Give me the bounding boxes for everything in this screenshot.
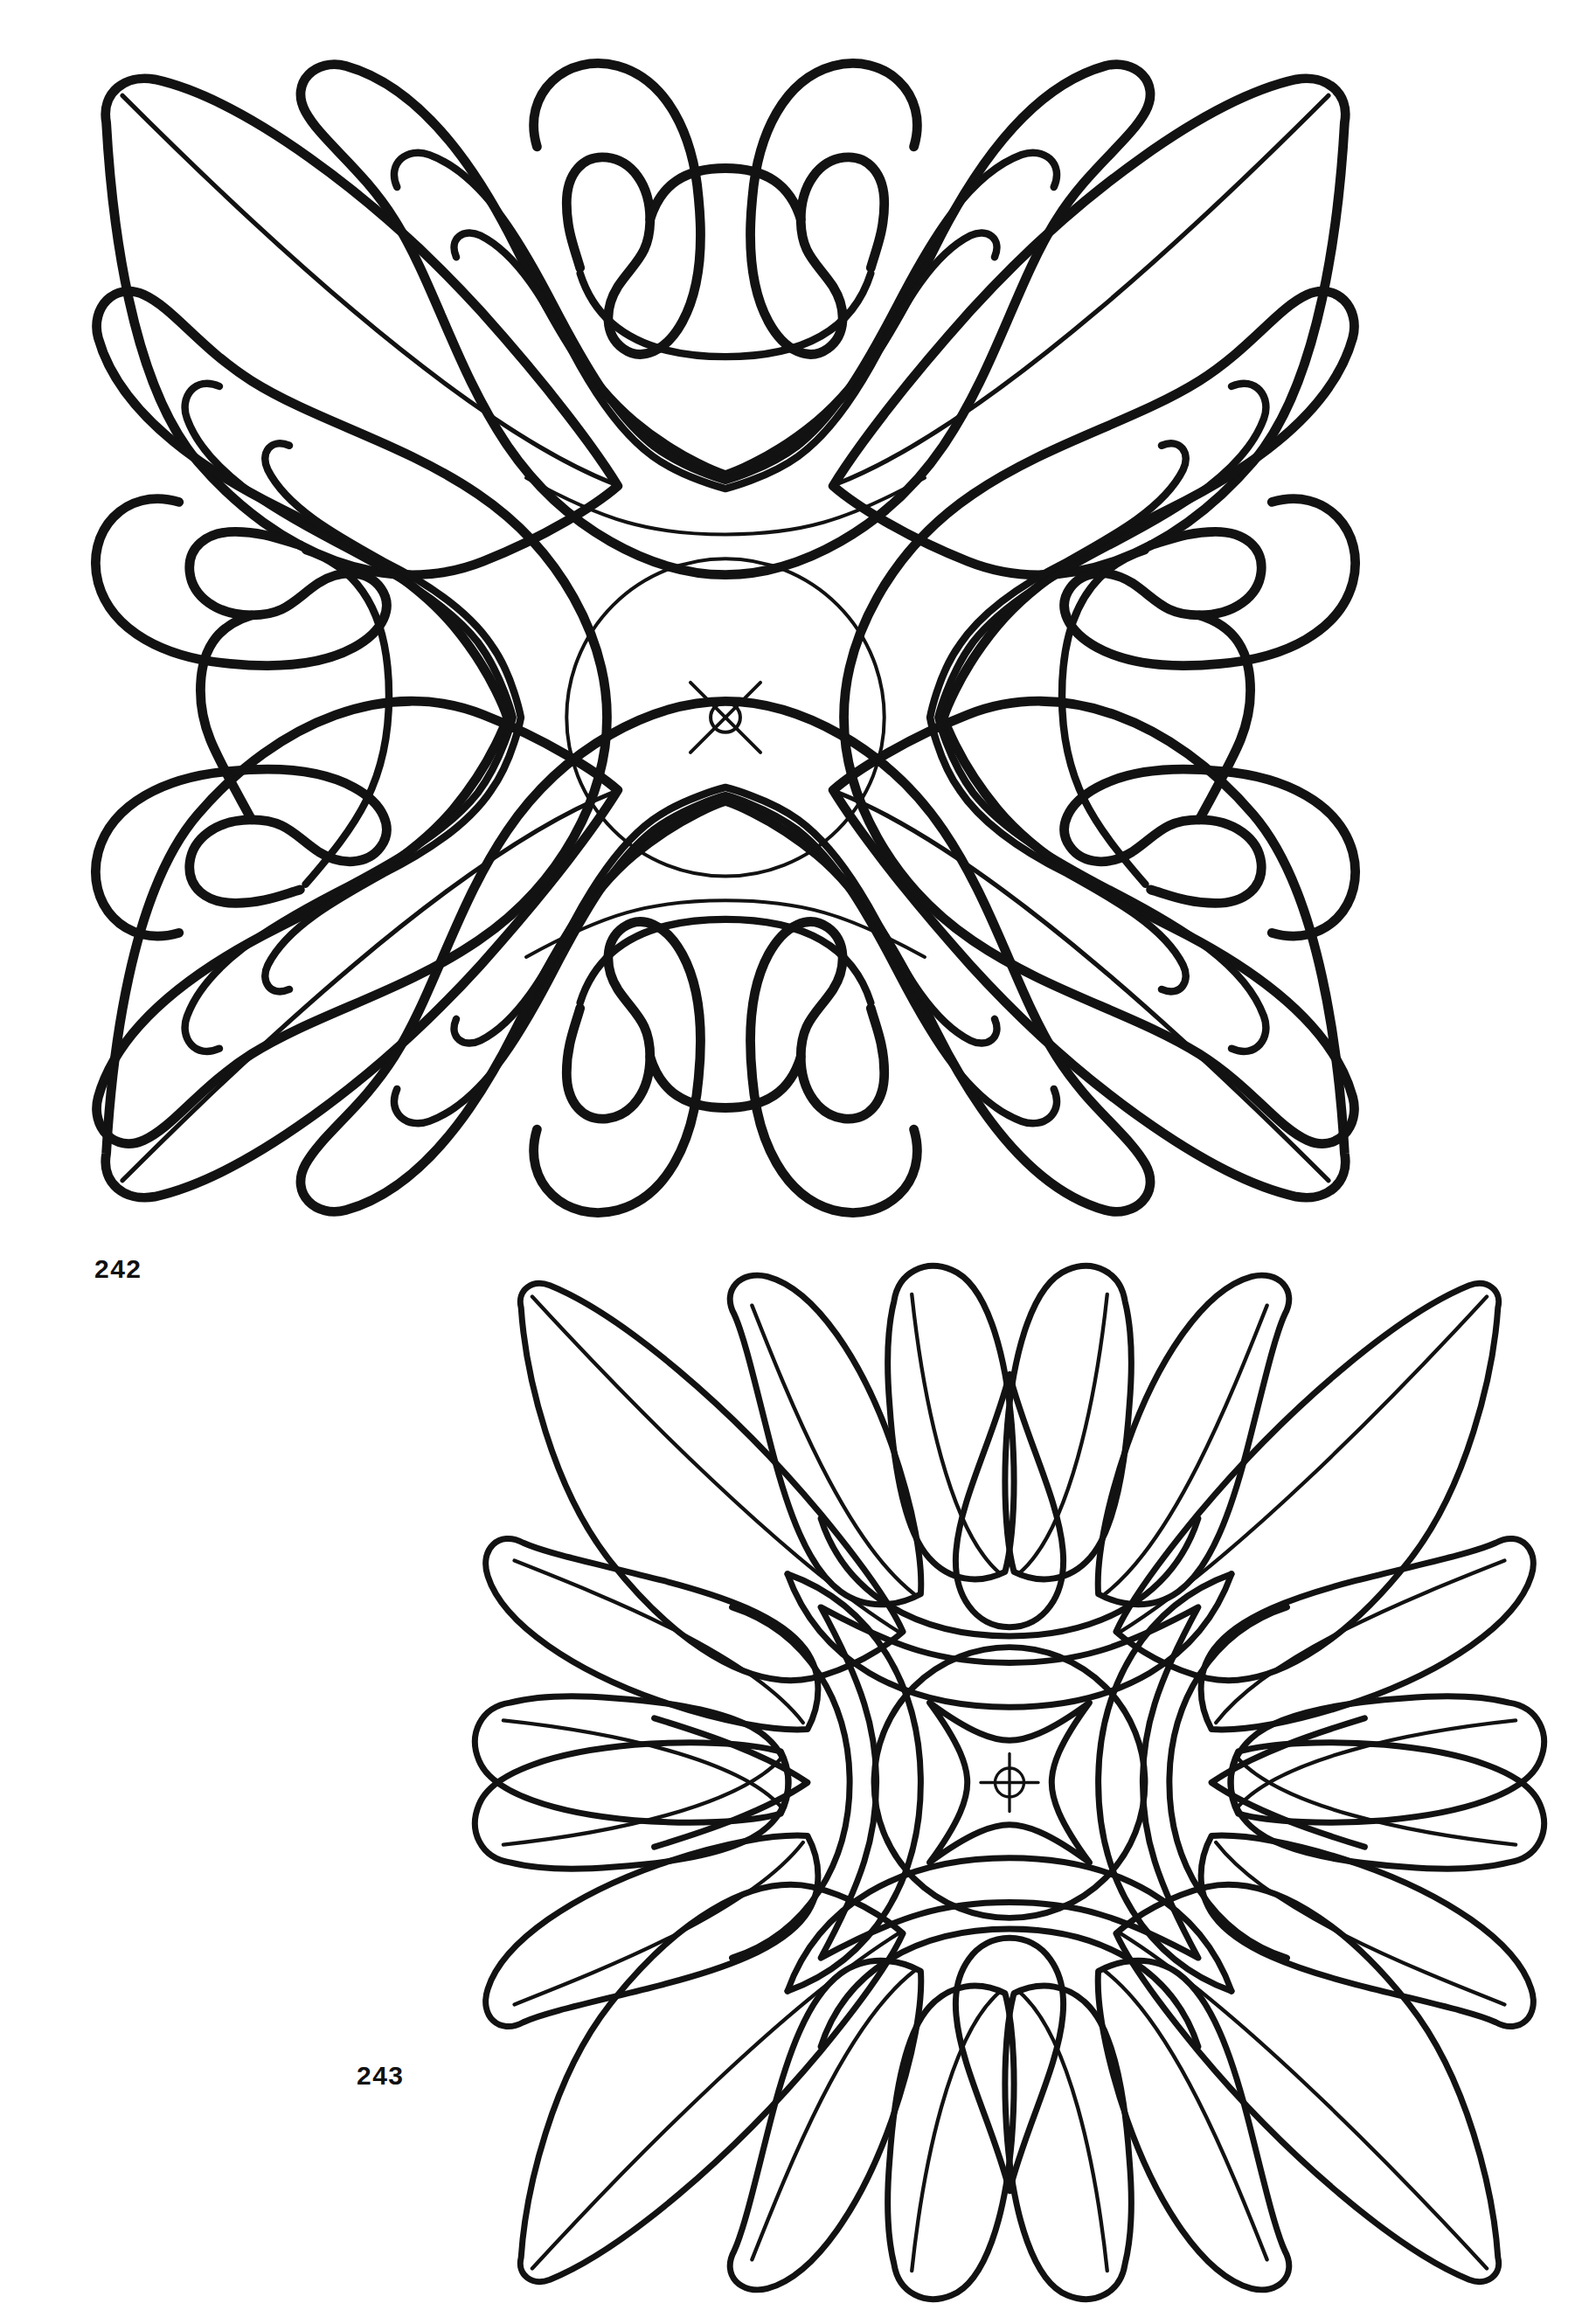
fig243-ink	[475, 1266, 1544, 2300]
figure-243	[454, 1241, 1565, 2324]
bottom-outer-acanthus	[301, 701, 1150, 1211]
right-lobe-3-vein	[1236, 1756, 1516, 1845]
figure-242	[52, 17, 1398, 1259]
right-volute-upper	[1065, 499, 1356, 666]
fig242-ink	[95, 63, 1355, 1212]
right-lobe-3	[1231, 1743, 1544, 1869]
left-lobe-3-vein	[503, 1756, 783, 1845]
top-outer-acanthus	[301, 65, 1150, 575]
figure-243-drawing	[454, 1241, 1565, 2324]
right-center-point	[1211, 1718, 1364, 1847]
top-scroll-crown	[650, 168, 801, 219]
plate-page: 242	[0, 0, 1582, 2324]
right-lobe-2-vein	[1236, 1720, 1516, 1809]
figure-243-label: 243	[357, 2061, 405, 2091]
figure-242-drawing	[52, 17, 1398, 1259]
top-bowl-sweep-outer	[788, 1574, 1232, 1707]
left-volute-upper	[95, 499, 386, 666]
left-lobe-2	[475, 1696, 788, 1822]
bottom-scroll-crown	[650, 1057, 801, 1108]
left-lobe-3	[475, 1743, 788, 1869]
center-mark	[981, 1753, 1038, 1811]
left-center-point	[655, 1718, 808, 1847]
figure-242-label: 242	[94, 1254, 142, 1284]
right-lobe-2	[1231, 1696, 1544, 1822]
center-mark	[690, 683, 760, 753]
bottom-bowl-sweep-outer	[788, 1858, 1232, 1991]
left-lobe-2-vein	[503, 1720, 783, 1809]
